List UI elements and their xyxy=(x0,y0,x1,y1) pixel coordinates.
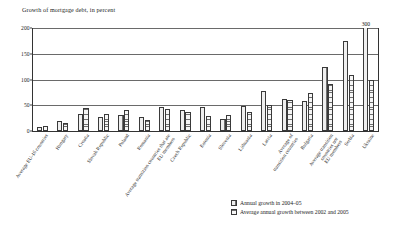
bar-series-2 xyxy=(369,80,374,132)
bar-group xyxy=(318,28,338,131)
x-axis-tick-label: Slovenia xyxy=(218,133,233,151)
bar-series-1 xyxy=(57,121,62,131)
bar-series-1 xyxy=(282,99,287,131)
bar-series-1 xyxy=(241,106,246,131)
bar-group xyxy=(114,28,134,131)
bar-group xyxy=(236,28,256,131)
bar-group xyxy=(216,28,236,131)
bar-group xyxy=(52,28,72,131)
y-axis-tick-label: 100 xyxy=(21,77,29,83)
bar-series-2 xyxy=(104,114,109,131)
legend-swatch-icon xyxy=(231,200,237,206)
bar-series-container: 300 xyxy=(32,28,379,131)
y-axis-tick-label: 150 xyxy=(21,51,29,57)
bar-series-2 xyxy=(247,112,252,131)
bar-group xyxy=(134,28,154,131)
bar-series-2 xyxy=(308,93,313,131)
x-axis-tick-label: Serbia xyxy=(343,133,355,147)
bar-group xyxy=(195,28,215,131)
legend-item-series-1: Annual growth in 2004–05 xyxy=(231,200,349,206)
bar-group xyxy=(175,28,195,131)
x-axis-tick-label: Bulgaria xyxy=(300,133,315,151)
x-axis-tick-label: Latvia xyxy=(262,133,274,147)
x-axis-tick-label: Hungary xyxy=(55,133,70,151)
y-axis-tick-label: 200 xyxy=(21,25,29,31)
bar-group xyxy=(257,28,277,131)
bar-series-2 xyxy=(328,84,333,131)
bar-series-1 xyxy=(78,114,83,132)
bar-value-label: 300 xyxy=(362,21,370,27)
x-axis-tick-label: Lithuania xyxy=(237,133,253,153)
bar-series-1 xyxy=(139,117,144,131)
bar-series-1 xyxy=(159,107,164,131)
chart-title: Growth of mortgage debt, in percent xyxy=(22,7,115,13)
x-axis-tick-label: Slovak Republic xyxy=(86,133,110,164)
bar-series-1 xyxy=(261,91,266,131)
x-axis-tick-label: Average EU-16 countries xyxy=(15,133,50,179)
bar-series-2 xyxy=(185,112,190,131)
legend-swatch-icon xyxy=(231,209,237,215)
x-axis-tick-label: Ukraine xyxy=(362,133,376,150)
bar-series-1 xyxy=(37,127,42,131)
legend-item-label: Average annual growth between 2002 and 2… xyxy=(240,209,349,215)
x-axis-tick-label: Croatia xyxy=(77,133,90,149)
bar-series-2 xyxy=(124,110,129,131)
bar-group xyxy=(154,28,174,131)
chart-figure: Growth of mortgage debt, in percent 0501… xyxy=(0,0,409,237)
bar-series-1: 300 xyxy=(363,28,368,131)
x-axis-tick-label: Average transition countries that are EU… xyxy=(124,133,176,201)
bar-series-2 xyxy=(145,120,150,131)
bar-series-1 xyxy=(98,117,103,131)
bar-series-2 xyxy=(349,75,354,131)
bar-series-2 xyxy=(83,108,88,131)
bar-series-1 xyxy=(343,41,348,131)
bar-series-2 xyxy=(206,116,211,131)
bar-series-1 xyxy=(302,101,307,131)
legend-item-label: Annual growth in 2004–05 xyxy=(240,200,301,206)
bar-series-1 xyxy=(180,110,185,131)
bar-series-2 xyxy=(165,109,170,131)
x-axis-tick-label: Romania xyxy=(136,133,151,152)
bar-series-1 xyxy=(118,115,123,131)
bar-series-2 xyxy=(287,100,292,131)
bar-series-1 xyxy=(220,119,225,131)
bar-group: 300 xyxy=(359,28,379,131)
bar-series-2 xyxy=(267,105,272,131)
bar-series-2 xyxy=(63,123,68,131)
bar-group xyxy=(297,28,317,131)
y-axis-tick-label: 50 xyxy=(24,102,30,108)
bar-group xyxy=(277,28,297,131)
x-axis-tick-label: Poland xyxy=(118,133,131,148)
bar-series-2 xyxy=(226,115,231,131)
bar-group xyxy=(338,28,358,131)
chart-legend: Annual growth in 2004–05 Average annual … xyxy=(231,200,349,215)
bar-series-1 xyxy=(322,67,327,131)
bar-series-1 xyxy=(200,107,205,131)
bar-group xyxy=(93,28,113,131)
legend-item-series-2: Average annual growth between 2002 and 2… xyxy=(231,209,349,215)
x-axis-tick-label: Estonia xyxy=(199,133,213,149)
bar-group xyxy=(73,28,93,131)
bar-group xyxy=(32,28,52,131)
bar-series-2 xyxy=(43,126,48,131)
